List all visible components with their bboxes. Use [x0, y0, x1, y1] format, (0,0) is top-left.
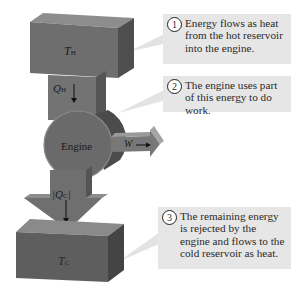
cold-reservoir-block: [16, 219, 124, 282]
step-number-badge: 1: [167, 17, 182, 32]
cold-reservoir-label: TC: [58, 254, 69, 269]
callout-1: 1 Energy flows as heat from the hot rese…: [163, 14, 291, 64]
engine-label: Engine: [61, 140, 92, 152]
step-number-badge: 3: [162, 210, 177, 225]
callout-3: 3 The remaining energy is rejected by th…: [158, 207, 291, 269]
callout-2: 2 The engine uses part of this energy to…: [163, 76, 291, 112]
callout-text: Energy flows as heat from the hot reserv…: [185, 17, 285, 54]
heat-engine-diagram: TH QH Engine W |QC| TC 1 Energy flows as…: [0, 0, 295, 292]
heat-in-label: QH: [53, 82, 66, 94]
heat-out-label: |QC|: [52, 188, 71, 200]
callout-text: The remaining energy is rejected by the …: [180, 210, 285, 260]
callout-text: The engine uses part of this energy to d…: [185, 79, 285, 116]
hot-reservoir-label: TH: [64, 44, 76, 59]
work-label: W: [124, 138, 132, 149]
hot-reservoir-block: [30, 13, 134, 78]
step-number-badge: 2: [167, 79, 182, 94]
